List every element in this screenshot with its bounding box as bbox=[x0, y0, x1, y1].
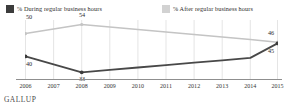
x-tick-2015: 2015 bbox=[271, 80, 283, 92]
x-axis-ticks: 2006 2007 2008 2009 2010 2011 2012 2013 … bbox=[25, 80, 278, 92]
x-tick-2010: 2010 bbox=[132, 80, 144, 92]
x-tick-2006: 2006 bbox=[19, 80, 31, 92]
legend-swatch-light-icon bbox=[162, 5, 170, 13]
legend-label-after: % After regular business hours bbox=[173, 5, 253, 13]
x-tick-2012: 2012 bbox=[188, 80, 200, 92]
value-label-after-2008: 54 bbox=[79, 11, 85, 18]
value-label-during-2006: 40 bbox=[26, 60, 32, 67]
chart-container: % During regular business hours % After … bbox=[0, 0, 288, 110]
series-line-during bbox=[26, 43, 278, 72]
series-markers-after bbox=[25, 23, 278, 44]
legend-swatch-dark-icon bbox=[6, 5, 14, 13]
x-tick-2008: 2008 bbox=[76, 80, 88, 92]
legend-item-after: % After regular business hours bbox=[162, 5, 253, 13]
chart-legend: % During regular business hours % After … bbox=[6, 3, 282, 14]
legend-label-during: % During regular business hours bbox=[17, 5, 102, 13]
series-line-after bbox=[26, 25, 278, 43]
legend-item-during: % During regular business hours bbox=[6, 5, 102, 13]
value-label-during-2015: 45 bbox=[268, 47, 274, 54]
plot-area: 50 54 46 40 33 45 bbox=[25, 20, 278, 79]
chart-svg bbox=[25, 20, 278, 79]
value-label-after-2015: 46 bbox=[268, 29, 274, 36]
source-attribution: GALLUP bbox=[4, 95, 36, 105]
x-tick-2007: 2007 bbox=[47, 80, 59, 92]
x-tick-2009: 2009 bbox=[104, 80, 116, 92]
value-label-after-2006: 50 bbox=[26, 13, 32, 20]
x-tick-2011: 2011 bbox=[160, 80, 172, 92]
gridlines bbox=[26, 20, 278, 79]
x-tick-2013: 2013 bbox=[216, 80, 228, 92]
x-tick-2014: 2014 bbox=[244, 80, 256, 92]
series-markers-during bbox=[25, 42, 278, 75]
